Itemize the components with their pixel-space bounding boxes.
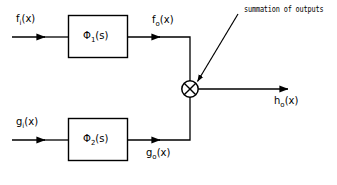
- result-output-label: ho(x): [274, 96, 298, 106]
- output-bottom-bus-lower: [159, 97, 190, 140]
- block-2-label: Φ2(s): [83, 134, 108, 144]
- block-1-label: Φ1(s): [83, 31, 108, 41]
- output-top-bus-upper: [159, 37, 190, 81]
- annotation-summation-of-outputs: summation of outputs: [244, 6, 323, 14]
- output-top-label: fo(x): [152, 15, 174, 25]
- annotation-leader-line: [198, 14, 239, 82]
- input-top-label: fi(x): [16, 14, 35, 24]
- diagram-canvas: fi(x) gi(x) fo(x) go(x) ho(x) Φ1(s) Φ2(s…: [0, 0, 337, 185]
- input-bottom-label: gi(x): [16, 117, 38, 127]
- output-bottom-label: go(x): [146, 148, 170, 158]
